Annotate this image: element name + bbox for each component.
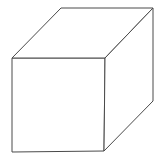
cube-front-face (12, 58, 105, 152)
cube-drawing (0, 0, 163, 165)
cube-diagram (0, 0, 163, 165)
